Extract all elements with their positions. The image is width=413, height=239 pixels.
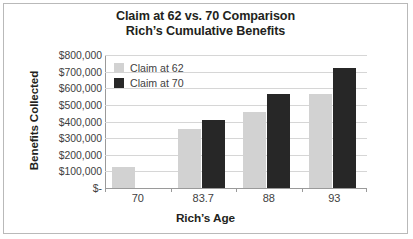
legend-item[interactable]: Claim at 70	[114, 75, 184, 90]
x-axis-tick-mark	[366, 188, 367, 192]
y-axis-tick-label: $200,000	[59, 149, 102, 160]
chart-frame: Claim at 62 vs. 70 Comparison Rich’s Cum…	[3, 3, 408, 234]
x-axis-tick-mark	[171, 188, 172, 192]
x-axis-tick-label: 70	[105, 192, 171, 204]
legend-item[interactable]: Claim at 62	[114, 60, 184, 75]
y-axis-tick-label: $700,000	[59, 66, 102, 77]
x-axis-tick-mark	[302, 188, 303, 192]
chart-legend: Claim at 62Claim at 70	[114, 60, 184, 90]
y-axis-tick-labels: $800,000$700,000$600,000$500,000$400,000…	[48, 55, 102, 189]
x-axis-tick-mark	[105, 188, 106, 192]
bar-group	[302, 55, 368, 188]
chart-title-line-2: Rich’s Cumulative Benefits	[4, 24, 407, 39]
bar-claim-at-62-93[interactable]	[309, 94, 332, 188]
x-axis-tick-label: 93	[302, 192, 368, 204]
bar-group	[236, 55, 302, 188]
bar-claim-at-62-88[interactable]	[243, 112, 266, 188]
x-axis-tick-label: 83.7	[171, 192, 237, 204]
bar-claim-at-70-93[interactable]	[333, 68, 356, 188]
x-axis-tick-mark	[236, 188, 237, 192]
bar-claim-at-70-83.7[interactable]	[202, 120, 225, 188]
y-axis-tick-label: $500,000	[59, 99, 102, 110]
chart-title: Claim at 62 vs. 70 Comparison Rich’s Cum…	[4, 9, 407, 38]
legend-swatch-icon	[114, 63, 124, 73]
y-axis-tick-label: $600,000	[59, 83, 102, 94]
y-axis-tick-label: $800,000	[59, 50, 102, 61]
chart-title-line-1: Claim at 62 vs. 70 Comparison	[116, 9, 295, 23]
y-axis-tick-label: $100,000	[59, 166, 102, 177]
y-axis-title: Benefits Collected	[27, 53, 40, 188]
legend-label: Claim at 70	[130, 77, 184, 89]
bar-claim-at-62-83.7[interactable]	[178, 129, 201, 188]
bar-claim-at-70-88[interactable]	[267, 94, 290, 188]
x-axis-tick-labels: 7083.78893	[105, 192, 367, 208]
y-axis-tick-label: $400,000	[59, 116, 102, 127]
y-axis-tick-label: $-	[93, 183, 102, 194]
y-axis-tick-label: $300,000	[59, 133, 102, 144]
x-axis-title: Rich’s Age	[4, 211, 407, 225]
bar-claim-at-62-70[interactable]	[112, 167, 135, 188]
legend-swatch-icon	[114, 78, 124, 88]
x-axis-tick-label: 88	[236, 192, 302, 204]
legend-label: Claim at 62	[130, 62, 184, 74]
